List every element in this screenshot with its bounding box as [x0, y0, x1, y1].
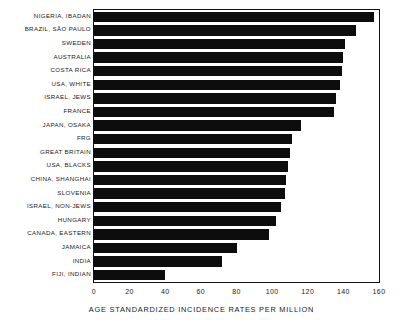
bar-row [94, 146, 379, 160]
bar [94, 66, 342, 76]
bar [94, 243, 237, 253]
category-label: ISRAEL, JEWS [0, 93, 91, 101]
bar-row [94, 24, 379, 38]
bar [94, 107, 334, 117]
bar-rows [94, 10, 379, 282]
category-axis-labels: NIGERIA, IBADANBRAZIL, SÃO PAULOSWEDENAU… [0, 9, 91, 283]
category-label: CHINA, SHANGHAI [0, 175, 91, 183]
bar-row [94, 241, 379, 255]
bar [94, 175, 286, 185]
bar [94, 229, 269, 239]
category-label: NIGERIA, IBADAN [0, 12, 91, 20]
bar-row [94, 160, 379, 174]
category-label: FRANCE [0, 107, 91, 115]
bar-row [94, 228, 379, 242]
category-label: BRAZIL, SÃO PAULO [0, 25, 91, 33]
x-tick-label: 160 [373, 288, 386, 295]
x-tick-label: 120 [301, 288, 314, 295]
category-label: ISRAEL, NON-JEWS [0, 202, 91, 210]
category-label: GREAT BRITAIN [0, 148, 91, 156]
x-tick-label: 40 [161, 288, 170, 295]
x-axis: 020406080100120140160 [93, 283, 380, 305]
category-label: SLOVENIA [0, 189, 91, 197]
bar [94, 188, 285, 198]
bar [94, 39, 345, 49]
category-label: JAMAICA [0, 243, 91, 251]
category-label: JAPAN, OSAKA [0, 121, 91, 129]
bar-row [94, 105, 379, 119]
bar [94, 25, 356, 35]
x-tick-label: 140 [337, 288, 350, 295]
category-label: INDIA [0, 257, 91, 265]
bar [94, 270, 165, 280]
category-label: FIJI, INDIAN [0, 270, 91, 278]
bar-row [94, 255, 379, 269]
bar-row [94, 214, 379, 228]
x-tick-label: 60 [197, 288, 206, 295]
category-label: CANADA, EASTERN [0, 229, 91, 237]
x-axis-title: AGE STANDARDIZED INCIDENCE RATES PER MIL… [0, 305, 403, 314]
x-tick-label: 20 [125, 288, 134, 295]
category-label: HUNGARY [0, 216, 91, 224]
category-label: COSTA RICA [0, 66, 91, 74]
bar-row [94, 173, 379, 187]
category-label: FRG [0, 134, 91, 142]
bar [94, 12, 374, 22]
bar-row [94, 10, 379, 24]
x-tick-label: 80 [232, 288, 241, 295]
plot-area [93, 9, 380, 283]
bar [94, 134, 292, 144]
bar [94, 161, 288, 171]
bar-row [94, 51, 379, 65]
bar [94, 80, 340, 90]
bar-row [94, 78, 379, 92]
bar-row [94, 132, 379, 146]
bar [94, 93, 336, 103]
bar [94, 256, 222, 266]
bar [94, 202, 281, 212]
bar [94, 52, 343, 62]
bar-row [94, 37, 379, 51]
category-label: USA, BLACKS [0, 161, 91, 169]
bar [94, 148, 290, 158]
bar-row [94, 268, 379, 282]
category-label: AUSTRALIA [0, 53, 91, 61]
x-tick-label: 0 [92, 288, 96, 295]
bar [94, 216, 276, 226]
category-label: USA, WHITE [0, 80, 91, 88]
bar-row [94, 64, 379, 78]
bar [94, 120, 301, 130]
x-tick-label: 100 [266, 288, 279, 295]
bar-row [94, 200, 379, 214]
bar-row [94, 119, 379, 133]
bar-row [94, 92, 379, 106]
category-label: SWEDEN [0, 39, 91, 47]
bar-row [94, 187, 379, 201]
bar-chart: NIGERIA, IBADANBRAZIL, SÃO PAULOSWEDENAU… [0, 0, 403, 326]
